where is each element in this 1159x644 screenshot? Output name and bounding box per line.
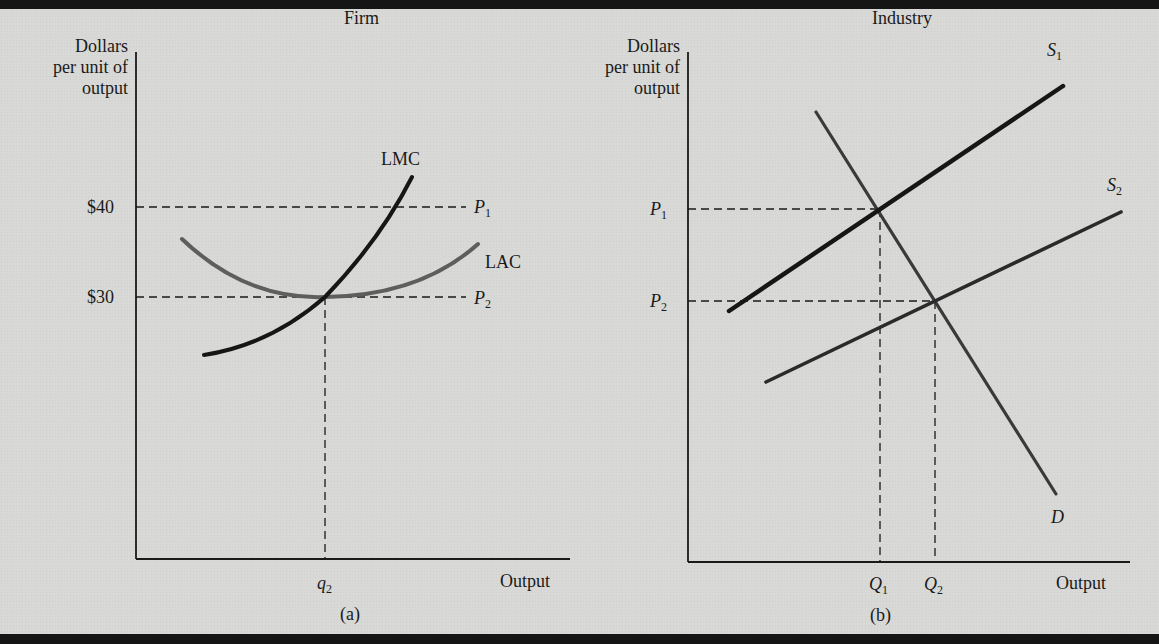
industry-y-label-line-1: Dollars <box>570 36 680 57</box>
firm-p1-label: P1 <box>474 197 491 223</box>
firm-p2-label: P2 <box>474 288 491 314</box>
industry-p2-label: P2 <box>650 291 667 317</box>
industry-q2-label: Q2 <box>924 574 943 600</box>
firm-y-label-line-3: output <box>20 78 128 99</box>
industry-panel-caption: (b) <box>870 605 891 625</box>
industry-panel-title: Industry <box>872 8 932 28</box>
industry-y-label-line-3: output <box>570 78 680 99</box>
industry-y-axis-label: Dollars per unit of output <box>570 36 680 99</box>
industry-x-axis-label: Output <box>1056 573 1106 593</box>
firm-x-axis-label: Output <box>500 571 550 591</box>
panel-b-graphics <box>688 52 1130 562</box>
industry-q1-label: Q1 <box>869 574 888 600</box>
firm-tick-30: $30 <box>87 287 114 307</box>
firm-y-label-line-2: per unit of <box>20 57 128 78</box>
s2-label: S2 <box>1107 175 1122 201</box>
supply-curve-s1 <box>729 86 1063 311</box>
demand-label: D <box>1051 507 1064 527</box>
firm-panel-title: Firm <box>344 8 379 28</box>
firm-q2-label: q2 <box>317 573 332 599</box>
supply-curve-s2 <box>766 212 1121 382</box>
lmc-label: LMC <box>381 149 420 169</box>
lmc-curve <box>204 177 412 355</box>
panel-a-graphics <box>136 52 570 559</box>
lac-curve <box>182 239 478 297</box>
firm-y-axis-label: Dollars per unit of output <box>20 36 128 99</box>
industry-y-label-line-2: per unit of <box>570 57 680 78</box>
industry-p1-label: P1 <box>650 199 667 225</box>
s1-label: S1 <box>1047 40 1062 66</box>
firm-panel-caption: (a) <box>340 604 360 624</box>
firm-y-label-line-1: Dollars <box>20 36 128 57</box>
lac-label: LAC <box>485 252 521 272</box>
firm-tick-40: $40 <box>87 197 114 217</box>
